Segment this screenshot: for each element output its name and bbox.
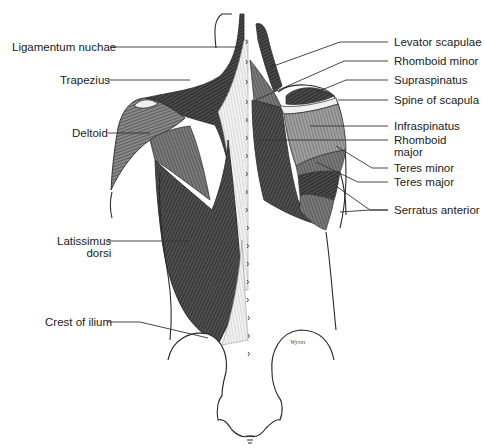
artist-signature: Wynn [290, 338, 306, 346]
label-rhomboid-major: Rhomboid major [394, 134, 446, 158]
label-rhomboid-major-line1: Rhomboid [394, 134, 446, 146]
label-rhomboid-major-line2: major [394, 146, 446, 158]
label-levator-scapulae: Levator scapulae [394, 36, 482, 48]
label-crest-of-ilium: Crest of ilium [45, 316, 112, 328]
label-ligamentum-nuchae: Ligamentum nuchae [12, 41, 116, 53]
serratus-anterior-muscle [300, 194, 334, 230]
label-rhomboid-minor: Rhomboid minor [394, 55, 478, 67]
sacrum-outline [217, 372, 282, 437]
label-latissimus-dorsi: Latissimus dorsi [57, 235, 111, 259]
label-supraspinatus: Supraspinatus [394, 74, 468, 86]
neck-outline [215, 14, 232, 48]
leader-levator-scapulae [268, 42, 388, 68]
iliac-crest-right [272, 330, 334, 372]
leader-serratus-anterior-2 [340, 210, 388, 212]
label-latissimus-line2: dorsi [57, 247, 111, 259]
torso-outline-right-lower [326, 232, 336, 330]
label-latissimus-line1: Latissimus [57, 235, 111, 247]
torso-outline-right [340, 172, 346, 215]
label-teres-minor: Teres minor [394, 162, 454, 174]
iliac-crest-left [168, 333, 226, 396]
label-serratus-anterior: Serratus anterior [394, 204, 480, 216]
arm-outline-left [111, 192, 113, 218]
label-deltoid: Deltoid [72, 127, 108, 139]
label-infraspinatus: Infraspinatus [394, 120, 460, 132]
back-muscles-illustration: Wynn [0, 0, 484, 448]
label-teres-major: Teres major [394, 176, 454, 188]
label-spine-of-scapula: Spine of scapula [394, 94, 479, 106]
label-trapezius: Trapezius [60, 74, 110, 86]
